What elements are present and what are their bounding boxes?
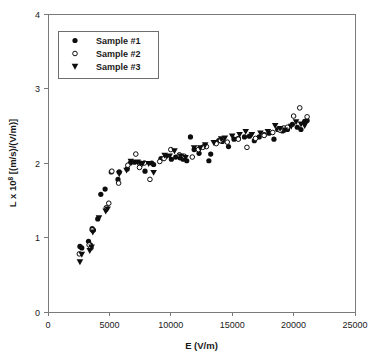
x-tick-label: 0 (45, 320, 50, 330)
x-axis-title: E (V/m) (185, 340, 218, 351)
legend-label-1: Sample #1 (96, 36, 141, 46)
data-point-filled-circle (72, 38, 77, 43)
data-point-filled-circle (142, 169, 147, 174)
data-point-open-circle (305, 115, 310, 120)
x-tick-label: 25000 (342, 320, 367, 330)
data-point-filled-circle (208, 151, 213, 156)
data-point-open-circle (270, 130, 275, 135)
data-series-group (77, 106, 310, 266)
data-point-open-circle (245, 145, 250, 150)
data-point-open-circle (106, 201, 111, 206)
data-point-open-circle (157, 159, 162, 164)
data-point-open-circle (126, 163, 131, 168)
chart-legend: Sample #1Sample #2Sample #3 (58, 31, 158, 78)
data-point-filled-circle (298, 127, 303, 132)
y-tick-label: 2 (35, 159, 40, 169)
data-point-open-circle (116, 181, 121, 186)
data-point-filled-circle (188, 134, 193, 139)
data-point-filled-circle (151, 162, 156, 167)
data-point-open-circle (190, 155, 195, 160)
legend-marker-1 (72, 38, 77, 43)
data-point-triangle-down (116, 171, 123, 177)
legend-label-3: Sample #3 (96, 62, 141, 72)
data-point-filled-circle (98, 192, 103, 197)
data-point-filled-circle (79, 245, 84, 250)
x-tick-label: 20000 (281, 320, 306, 330)
data-point-open-circle (297, 106, 302, 111)
data-point-open-circle (253, 136, 258, 141)
data-point-open-circle (148, 177, 153, 182)
data-point-open-circle (225, 140, 230, 145)
data-point-triangle-down (77, 259, 84, 265)
data-point-filled-circle (103, 186, 108, 191)
y-tick-label: 0 (35, 308, 40, 318)
data-point-triangle-down (150, 170, 157, 176)
data-point-open-circle (137, 165, 142, 170)
data-point-open-circle (236, 137, 241, 142)
data-point-open-circle (262, 133, 267, 138)
x-tick-label: 10000 (158, 320, 183, 330)
y-tick-label: 4 (35, 10, 40, 20)
x-tick-label: 15000 (220, 320, 245, 330)
legend-label-2: Sample #2 (96, 49, 141, 59)
y-axis-title: L x 108 [(m/s)/(V/m)] (7, 119, 19, 207)
data-point-triangle-down (242, 129, 249, 135)
y-tick-label: 1 (35, 233, 40, 243)
data-point-filled-circle (206, 158, 211, 163)
plot-canvas: 050001000015000200002500001234 Sample #1… (0, 0, 385, 357)
x-tick-label: 5000 (99, 320, 119, 330)
data-point-filled-circle (242, 134, 247, 139)
scatter-chart-figure: 050001000015000200002500001234 Sample #1… (0, 0, 385, 357)
series-1 (77, 118, 309, 251)
legend-marker-2 (73, 51, 78, 56)
data-point-filled-circle (271, 137, 276, 142)
y-axis-title-text: L x 108 [(m/s)/(V/m)] (7, 119, 19, 207)
data-point-open-circle (134, 152, 139, 157)
y-tick-label: 3 (35, 84, 40, 94)
data-point-open-circle (291, 114, 296, 119)
data-point-open-circle (73, 51, 78, 56)
data-point-open-circle (110, 169, 115, 174)
series-2 (77, 106, 309, 257)
data-point-triangle-down (90, 229, 97, 235)
